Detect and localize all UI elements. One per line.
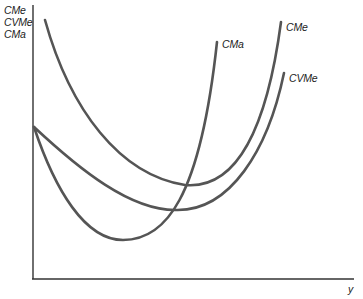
cme-curve-label: CMe [286,21,308,33]
cme-curve [45,20,281,185]
cvme-curve [34,73,284,210]
cvme-curve-label: CVMe [289,72,317,84]
x-axis-label: y [348,283,353,295]
cma-curve-label: CMa [222,38,244,50]
cost-curves-chart [0,0,363,299]
